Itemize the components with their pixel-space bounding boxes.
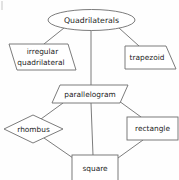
node-trapezoid[interactable]: trapezoid bbox=[125, 46, 176, 69]
rhombus-label: rhombus bbox=[17, 125, 50, 134]
node-rectangle[interactable]: rectangle bbox=[127, 117, 178, 140]
parallelogram-label: parallelogram bbox=[64, 90, 115, 99]
node-irregular-quadrilateral[interactable]: irregular quadrilateral bbox=[9, 44, 76, 70]
edge-quadrilaterals-to-trapezoid bbox=[119, 28, 139, 46]
trapezoid-label: trapezoid bbox=[130, 53, 165, 62]
node-quadrilaterals[interactable]: Quadrilaterals bbox=[48, 10, 135, 31]
rectangle-label: rectangle bbox=[135, 124, 170, 133]
edge-parallelogram-to-rectangle bbox=[119, 101, 141, 117]
edge-parallelogram-to-square bbox=[91, 103, 93, 155]
quadrilaterals-diagram: Quadrilaterals irregular quadrilateral t… bbox=[0, 0, 179, 180]
node-parallelogram[interactable]: parallelogram bbox=[52, 85, 128, 103]
node-square[interactable]: square bbox=[72, 155, 118, 180]
edge-rhombus-to-square bbox=[44, 138, 73, 158]
edge-parallelogram-to-rhombus bbox=[41, 103, 63, 119]
edge-rectangle-to-square bbox=[118, 140, 143, 158]
quadrilaterals-label: Quadrilaterals bbox=[64, 16, 119, 25]
diagram-canvas: Quadrilaterals irregular quadrilateral t… bbox=[0, 0, 179, 180]
edge-quadrilaterals-to-irregular bbox=[44, 28, 64, 44]
node-rhombus[interactable]: rhombus bbox=[4, 115, 63, 143]
square-label: square bbox=[82, 164, 108, 173]
irregular-quadrilateral-label-line2: quadrilateral bbox=[17, 58, 64, 67]
irregular-quadrilateral-label-line1: irregular bbox=[27, 47, 59, 56]
